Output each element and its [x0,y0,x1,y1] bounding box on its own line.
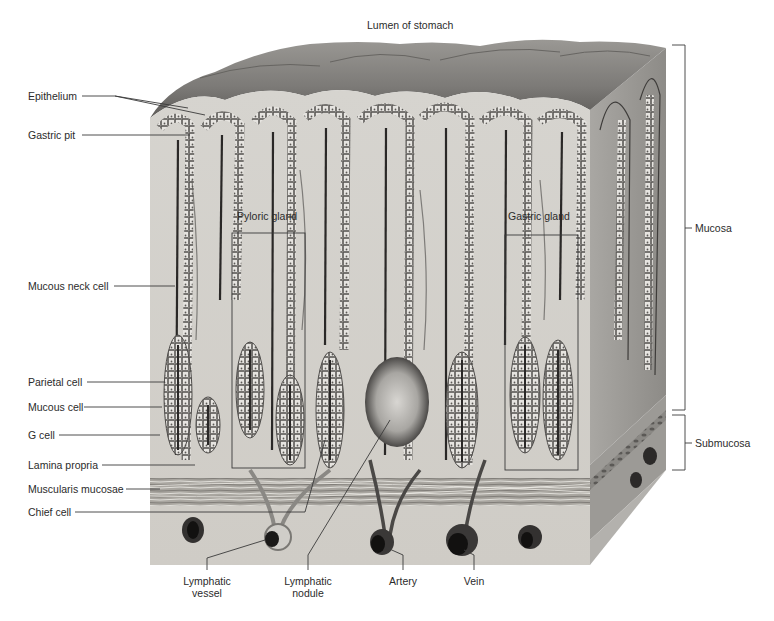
vein-label: Vein [459,575,489,587]
mucous-neck-cell-label: Mucous neck cell [28,280,109,292]
g-cell-label: G cell [28,429,55,441]
epithelium-label: Epithelium [28,90,77,102]
gastric-pit-label: Gastric pit [28,129,75,141]
lymphatic-nodule-label: Lymphatic nodule [283,575,333,599]
mucous-cell-label: Mucous cell [28,401,83,413]
muscularis-mucosae-label: Muscularis mucosae [28,483,124,495]
chief-cell-label: Chief cell [28,506,71,518]
lymphatic-nodule-shape [365,357,429,447]
parietal-cell-label: Parietal cell [28,376,82,388]
mucosa-label: Mucosa [695,222,732,234]
lamina-propria-label: Lamina propria [28,459,98,471]
stomach-wall-diagram: Lumen of stomach Epithelium Gastric pit … [0,0,774,621]
pyloric-gland-label: Pyloric gland [237,210,297,222]
muscularis-mucosae-band [150,478,590,506]
lumen-of-stomach-label: Lumen of stomach [367,19,453,31]
lymphatic-vessel-label: Lymphatic vessel [182,575,232,599]
submucosa-label: Submucosa [695,437,750,449]
block-side-face [590,48,666,565]
tissue-block-illustration [0,0,774,621]
artery-label: Artery [383,575,423,587]
gastric-gland-label: Gastric gland [508,210,570,222]
